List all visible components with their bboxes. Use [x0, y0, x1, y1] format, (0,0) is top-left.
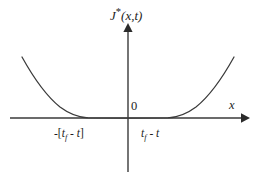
x-axis-label: x	[229, 99, 235, 112]
left-root-label: -[tf - t]	[54, 128, 84, 143]
right-root-middle: -	[147, 127, 157, 139]
figure-canvas	[0, 0, 260, 181]
left-root-suffix: ]	[80, 127, 84, 139]
y-axis-arrowhead	[123, 23, 132, 32]
right-root-label: tf - t	[141, 128, 159, 143]
origin-label: 0	[131, 100, 137, 113]
y-axis-title-args: (x,t)	[121, 8, 142, 23]
x-axis-arrowhead	[241, 113, 250, 123]
figure-container: J*(x,t) 0 x -[tf - t] tf - t	[0, 0, 260, 181]
right-root-tail: t	[156, 127, 159, 139]
left-root-prefix: -[	[54, 127, 62, 139]
left-root-middle: -	[67, 127, 77, 139]
y-axis-title: J*(x,t)	[110, 7, 142, 22]
